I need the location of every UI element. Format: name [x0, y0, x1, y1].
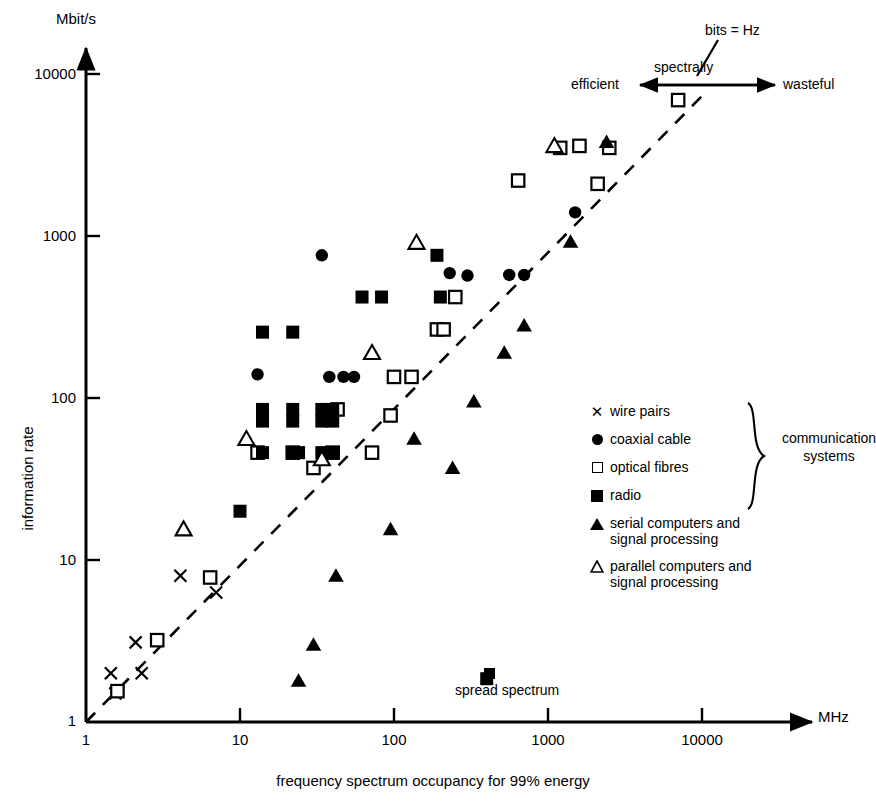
data-point: [434, 291, 447, 304]
y-tick-label-10000: 10000: [14, 65, 76, 82]
data-point: [437, 323, 449, 335]
y-axis-ticks: [86, 74, 100, 560]
y-tick-label-1000: 1000: [14, 227, 76, 244]
data-point: [445, 460, 461, 474]
legend-label-radio: radio: [610, 487, 641, 503]
data-point: [326, 403, 339, 416]
data-point: [130, 636, 142, 648]
data-point: [286, 415, 299, 428]
data-point: [286, 403, 299, 416]
data-point: [256, 446, 269, 459]
legend-item-wire-pairs: ✕ wire pairs: [584, 403, 876, 420]
x-axis-ticks: [240, 708, 702, 722]
open-square-icon: [584, 459, 610, 476]
series-open-triangle: [176, 138, 563, 535]
data-point: [176, 521, 192, 535]
data-point: [256, 326, 269, 339]
data-point: [388, 371, 400, 383]
legend-brace: [744, 401, 770, 511]
legend-label-optical-fibres: optical fibres: [610, 459, 689, 475]
data-point: [516, 318, 532, 332]
data-point: [328, 568, 344, 582]
legend-item-serial-computers: serial computers and signal processing: [584, 515, 876, 547]
x-tick-label-10: 10: [200, 731, 280, 748]
data-point: [111, 685, 123, 697]
data-point: [672, 94, 684, 106]
data-point: [151, 634, 163, 646]
y-tick-label-10: 10: [14, 551, 76, 568]
legend-label-parallel-line2: signal processing: [610, 574, 718, 590]
data-point-markers: [105, 94, 684, 700]
data-point: [384, 409, 396, 421]
axis-lines: [86, 48, 812, 722]
legend-label-parallel-line1: parallel computers and: [610, 558, 752, 574]
legend-label-parallel-computers: parallel computers and signal processing: [610, 558, 752, 590]
data-point: [323, 371, 335, 383]
data-point: [326, 446, 339, 459]
x-tick-label-1: 1: [46, 731, 126, 748]
data-point: [383, 522, 399, 536]
data-point: [316, 249, 328, 261]
data-point: [356, 291, 369, 304]
legend-group-label-line2: systems: [803, 448, 854, 464]
data-point: [591, 178, 603, 190]
data-point: [512, 174, 524, 186]
legend-label-coaxial-cable: coaxial cable: [610, 431, 691, 447]
legend-group-label-line1: communication: [782, 430, 876, 446]
data-point: [449, 291, 461, 303]
x-tick-label-10000: 10000: [662, 731, 742, 748]
filled-triangle-icon: [584, 515, 610, 532]
bits-equals-hz-leader: [697, 40, 718, 76]
data-point: [573, 140, 585, 152]
data-point: [348, 371, 360, 383]
data-point: [461, 269, 473, 281]
data-point: [405, 371, 417, 383]
data-point: [375, 291, 388, 304]
data-point: [204, 571, 216, 583]
data-point: [364, 345, 380, 359]
data-point: [518, 269, 530, 281]
data-point: [503, 269, 515, 281]
legend-item-parallel-computers: parallel computers and signal processing: [584, 558, 876, 590]
data-point: [292, 446, 305, 459]
data-point: [444, 267, 456, 279]
data-point: [238, 431, 254, 445]
chart-figure: Mbit/s MHz information rate frequency sp…: [0, 0, 876, 807]
legend-group-label: communication systems: [774, 429, 876, 465]
filled-square-icon: [584, 487, 610, 504]
data-point: [496, 345, 512, 359]
y-tick-label-1: 1: [14, 712, 76, 729]
series-filled-circle: [251, 206, 581, 383]
legend-label-serial-line2: signal processing: [610, 531, 718, 547]
data-point: [136, 667, 148, 679]
filled-circle-icon: [584, 431, 610, 448]
y-tick-label-100: 100: [14, 389, 76, 406]
x-tick-label-100: 100: [354, 731, 434, 748]
legend-item-radio: radio: [584, 487, 876, 504]
data-point: [480, 672, 493, 685]
data-point: [251, 368, 263, 380]
data-point: [430, 249, 443, 262]
data-point: [326, 415, 339, 428]
data-point: [409, 235, 425, 249]
data-point: [105, 667, 117, 679]
legend-label-wire-pairs: wire pairs: [610, 403, 670, 419]
data-point: [174, 570, 186, 582]
legend-label-serial-line1: serial computers and: [610, 515, 740, 531]
legend: ✕ wire pairs coaxial cable optical fibre…: [584, 403, 876, 601]
legend-label-serial-computers: serial computers and signal processing: [610, 515, 740, 547]
data-point: [256, 415, 269, 428]
data-point: [466, 394, 482, 408]
data-point: [256, 403, 269, 416]
data-point: [234, 505, 247, 518]
data-point: [569, 206, 581, 218]
x-tick-label-1000: 1000: [508, 731, 588, 748]
open-triangle-icon: [584, 558, 610, 575]
cross-icon: ✕: [584, 403, 610, 420]
data-point: [286, 326, 299, 339]
series-open-square: [111, 94, 684, 697]
data-point: [291, 673, 307, 687]
data-point: [406, 431, 422, 445]
data-point: [366, 446, 378, 458]
data-point: [306, 637, 322, 651]
